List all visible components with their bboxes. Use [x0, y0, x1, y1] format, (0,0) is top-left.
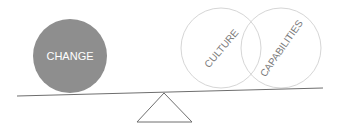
- fulcrum-triangle: [137, 93, 192, 122]
- balance-diagram: CHANGE CULTURE CAPABILITIES: [0, 0, 340, 130]
- capabilities-label: CAPABILITIES: [258, 18, 305, 79]
- capabilities-weight: CAPABILITIES: [241, 8, 321, 88]
- change-weight: CHANGE: [33, 19, 107, 93]
- culture-weight: CULTURE: [181, 8, 261, 88]
- change-label: CHANGE: [46, 50, 93, 62]
- balance-diagram-svg: CHANGE CULTURE CAPABILITIES: [0, 0, 340, 130]
- culture-label: CULTURE: [202, 27, 241, 70]
